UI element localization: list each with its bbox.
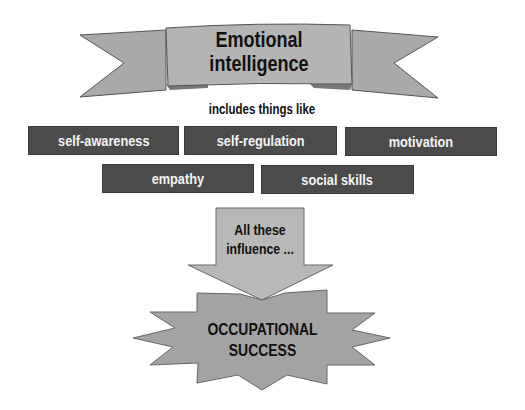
banner-left-tail bbox=[80, 30, 166, 97]
component-social-skills: social skills bbox=[261, 165, 414, 194]
banner-right-tail bbox=[352, 30, 438, 98]
component-self-regulation: self-regulation bbox=[184, 126, 337, 155]
outcome-label-line1: OCCUPATIONAL bbox=[203, 319, 322, 340]
component-label: empathy bbox=[152, 170, 204, 187]
subtitle: includes things like bbox=[180, 101, 344, 117]
component-label: social skills bbox=[302, 171, 374, 188]
banner-title-line2: intelligence bbox=[183, 52, 336, 76]
component-self-awareness: self-awareness bbox=[28, 126, 179, 155]
component-label: motivation bbox=[389, 133, 453, 150]
banner-title: Emotional intelligence bbox=[183, 28, 336, 76]
component-label: self-awareness bbox=[58, 132, 149, 149]
arrow-label-line1: All these bbox=[219, 220, 301, 239]
outcome-label: OCCUPATIONAL SUCCESS bbox=[203, 319, 322, 361]
component-motivation: motivation bbox=[345, 127, 497, 156]
banner-title-line1: Emotional bbox=[183, 28, 336, 52]
component-label: self-regulation bbox=[217, 132, 305, 149]
outcome-label-line2: SUCCESS bbox=[203, 340, 322, 361]
banner-fold-right bbox=[310, 84, 352, 90]
component-empathy: empathy bbox=[102, 164, 254, 193]
arrow-label: All these influence ... bbox=[219, 220, 301, 258]
arrow-label-line2: influence ... bbox=[219, 239, 301, 258]
